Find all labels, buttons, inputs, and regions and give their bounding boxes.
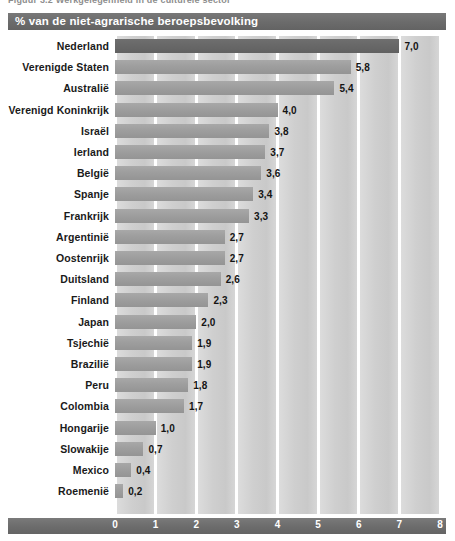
bar [115, 145, 265, 159]
grid-band [320, 36, 358, 514]
bar [115, 272, 221, 286]
bar-value-label: 3,6 [266, 168, 280, 179]
bar [115, 421, 156, 435]
category-label: Australië [0, 82, 109, 94]
bar-value-label: 3,4 [258, 189, 272, 200]
grid-band [401, 36, 439, 514]
bar-value-label: 7,0 [404, 41, 418, 52]
x-axis-tick-label: 6 [356, 519, 362, 530]
category-label: Argentinië [0, 231, 109, 243]
category-label: Spanje [0, 188, 109, 200]
bar [115, 357, 192, 371]
bar-value-label: 0,2 [128, 486, 142, 497]
bar-value-label: 3,7 [270, 147, 284, 158]
plot-area: 7,05,85,44,03,83,73,63,43,32,72,72,62,32… [115, 36, 440, 514]
bar-value-label: 2,7 [230, 253, 244, 264]
bar [115, 315, 196, 329]
bar-chart: NederlandVerenigde StatenAustraliëVereni… [0, 36, 455, 514]
category-label: Mexico [0, 464, 109, 476]
bar [115, 463, 131, 477]
bar-value-label: 1,7 [189, 401, 203, 412]
bar-value-label: 1,8 [193, 380, 207, 391]
bar [115, 399, 184, 413]
category-label: Duitsland [0, 273, 109, 285]
bar-value-label: 4,0 [283, 105, 297, 116]
bar [115, 81, 334, 95]
bar-value-label: 5,4 [339, 83, 353, 94]
category-label: Israël [0, 125, 109, 137]
bar-value-label: 2,3 [213, 295, 227, 306]
chart-title: % van de niet-agrarische beroepsbevolkin… [15, 15, 258, 27]
bar-value-label: 3,8 [274, 126, 288, 137]
bar [115, 39, 399, 53]
category-label: Slowakije [0, 443, 109, 455]
chart-header-band: % van de niet-agrarische beroepsbevolkin… [8, 13, 446, 30]
bar [115, 60, 351, 74]
bar-value-label: 0,7 [148, 444, 162, 455]
bar [115, 378, 188, 392]
bar [115, 251, 225, 265]
category-label: Japan [0, 316, 109, 328]
bar [115, 209, 249, 223]
grid-band [360, 36, 398, 514]
x-axis-tick-label: 0 [112, 519, 118, 530]
bar [115, 103, 278, 117]
x-axis-tick-label: 5 [315, 519, 321, 530]
x-axis-tick-label: 8 [437, 519, 443, 530]
category-label: Oostenrijk [0, 252, 109, 264]
x-axis-tick-label: 2 [193, 519, 199, 530]
category-label: Hongarije [0, 422, 109, 434]
top-caption-text: Figuur 3.2 Werkgelegenheid in de culture… [0, 0, 455, 5]
category-label: België [0, 167, 109, 179]
category-label: Verenigde Staten [0, 61, 109, 73]
bar [115, 230, 225, 244]
bar [115, 124, 269, 138]
bar [115, 187, 253, 201]
bar [115, 293, 208, 307]
x-axis-tick-label: 7 [397, 519, 403, 530]
bar [115, 442, 143, 456]
x-axis-tick-label: 4 [275, 519, 281, 530]
bar-value-label: 3,3 [254, 211, 268, 222]
x-axis-tick-label: 1 [153, 519, 159, 530]
bar-value-label: 1,9 [197, 338, 211, 349]
category-label-column: NederlandVerenigde StatenAustraliëVereni… [0, 36, 109, 514]
bar-value-label: 1,9 [197, 359, 211, 370]
category-label: Frankrijk [0, 210, 109, 222]
bar-value-label: 0,4 [136, 465, 150, 476]
top-caption-strip: Figuur 3.2 Werkgelegenheid in de culture… [0, 0, 455, 9]
category-label: Tsjechië [0, 337, 109, 349]
bar-value-label: 2,6 [226, 274, 240, 285]
bar [115, 166, 261, 180]
bar [115, 484, 123, 498]
bar-value-label: 2,0 [201, 317, 215, 328]
category-label: Verenigd Koninkrijk [0, 104, 109, 116]
category-label: Roemenië [0, 485, 109, 497]
bar-value-label: 2,7 [230, 232, 244, 243]
category-label: Brazilië [0, 358, 109, 370]
bar-value-label: 1,0 [161, 423, 175, 434]
category-label: Finland [0, 294, 109, 306]
x-axis-band: 012345678 [8, 518, 446, 534]
bar-value-label: 5,8 [356, 62, 370, 73]
category-label: Peru [0, 379, 109, 391]
category-label: Colombia [0, 400, 109, 412]
bar [115, 336, 192, 350]
x-axis-tick-label: 3 [234, 519, 240, 530]
category-label: Ierland [0, 146, 109, 158]
category-label: Nederland [0, 40, 109, 52]
